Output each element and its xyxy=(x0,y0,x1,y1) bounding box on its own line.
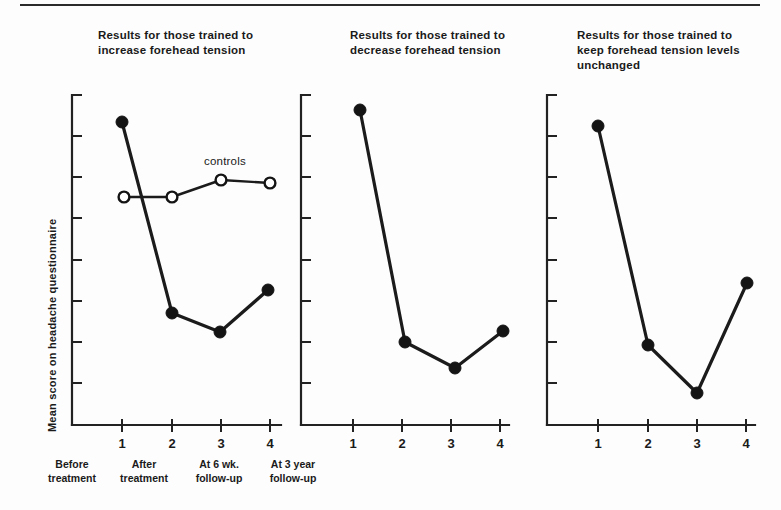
series-unchanged-line xyxy=(598,126,747,393)
series-unchanged-point-4 xyxy=(741,277,753,289)
panel-unchanged-xtick-3: 3 xyxy=(682,436,712,451)
series-unchanged-point-2 xyxy=(642,339,654,351)
panel-unchanged-xtick-1: 1 xyxy=(583,436,613,451)
panel-unchanged-plot xyxy=(0,0,781,510)
series-unchanged-point-1 xyxy=(592,120,604,132)
figure-root: Mean score on headache questionnaire Res… xyxy=(0,0,781,510)
panel-unchanged-xtick-4: 4 xyxy=(731,436,761,451)
series-unchanged-point-3 xyxy=(691,387,703,399)
panel-unchanged: Results for those trained to keep forehe… xyxy=(0,0,781,510)
panel-unchanged-xtick-2: 2 xyxy=(633,436,663,451)
